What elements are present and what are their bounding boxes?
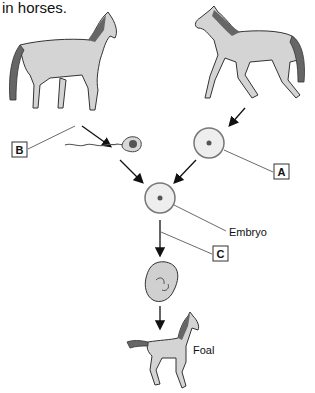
foal-figure <box>127 312 199 388</box>
mare-figure <box>195 6 304 98</box>
label-a-leader <box>224 150 273 172</box>
arrow-mare-to-egg <box>230 108 245 125</box>
arrow-stallion-to-sperm <box>82 126 110 146</box>
arrow-sperm-to-zygote <box>120 160 142 182</box>
label-a: A <box>278 166 286 178</box>
stallion-figure <box>9 12 116 110</box>
foal-label: Foal <box>193 344 214 356</box>
label-c: C <box>217 248 225 260</box>
zygote-cell <box>145 183 175 213</box>
fetus-figure <box>145 262 178 302</box>
reproduction-diagram: A B Embryo C Foal <box>0 0 315 393</box>
sperm-cell <box>65 137 141 152</box>
label-c-leader <box>161 232 212 254</box>
embryo-leader <box>174 205 226 231</box>
arrow-egg-to-zygote <box>175 160 196 182</box>
label-b-leader <box>28 126 75 149</box>
egg-cell <box>194 128 224 158</box>
label-b: B <box>16 144 24 156</box>
embryo-label: Embryo <box>229 226 267 238</box>
